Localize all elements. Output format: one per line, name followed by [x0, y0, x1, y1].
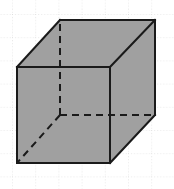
cube-figure-svg: [0, 0, 174, 189]
cube-figure: [0, 0, 174, 189]
